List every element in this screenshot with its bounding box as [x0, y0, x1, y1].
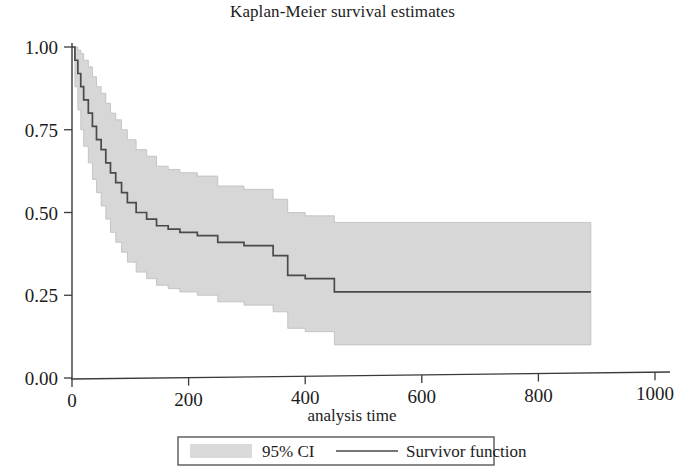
chart-legend: 95% CI Survivor function — [178, 437, 527, 465]
survival-plot: 0.000.250.500.751.00 02004006008001000 a… — [0, 0, 685, 467]
ci-band-95 — [72, 47, 591, 345]
x-tick-label: 0 — [67, 390, 77, 411]
legend-label-survivor-function: Survivor function — [406, 442, 527, 461]
x-tick-label: 800 — [524, 385, 553, 406]
y-tick-label: 1.00 — [25, 37, 58, 58]
kaplan-meier-figure: Kaplan-Meier survival estimates 0.000.25… — [0, 0, 685, 467]
y-tick-label: 0.25 — [25, 285, 58, 306]
x-tick-label: 200 — [174, 389, 203, 410]
y-tick-label: 0.50 — [25, 203, 58, 224]
x-axis-line — [71, 372, 670, 379]
x-tick-label: 1000 — [636, 383, 674, 404]
x-tick-label: 600 — [408, 386, 437, 407]
legend-swatch-95-ci — [190, 444, 252, 458]
y-tick-label: 0.00 — [25, 368, 58, 389]
x-axis-title: analysis time — [307, 406, 396, 425]
y-axis-ticks: 0.000.250.500.751.00 — [25, 37, 72, 389]
y-tick-label: 0.75 — [25, 120, 58, 141]
legend-label-95-ci: 95% CI — [262, 442, 315, 461]
